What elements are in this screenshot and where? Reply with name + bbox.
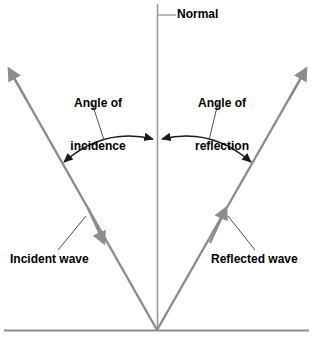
normal-label: Normal [177, 7, 218, 21]
angle-of-incidence-label: Angle of incidence [57, 68, 139, 181]
reflected-ray-arrow-lower [210, 208, 226, 243]
angle-of-reflection-label-line1: Angle of [176, 96, 268, 110]
incident-wave-label: Incident wave [10, 252, 89, 266]
angle-of-incidence-label-line2: incidence [57, 139, 139, 153]
angle-of-incidence-label-line1: Angle of [57, 96, 139, 110]
diagram-canvas: Normal Angle of incidence Angle of refle… [0, 0, 313, 342]
incident-wave-leader-line [58, 216, 86, 250]
reflected-wave-leader-line [228, 216, 255, 250]
reflected-wave-label: Reflected wave [211, 252, 298, 266]
incident-ray-arrow-upper [9, 69, 26, 99]
angle-of-reflection-label-line2: reflection [176, 139, 268, 153]
angle-of-reflection-label: Angle of reflection [176, 68, 268, 181]
incident-ray-arrow-lower [88, 208, 104, 243]
reflected-ray-arrow-upper [289, 69, 306, 99]
